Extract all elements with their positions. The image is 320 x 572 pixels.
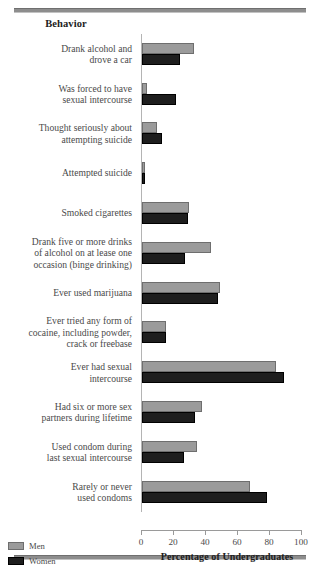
chart-row: Used condom duringlast sexual intercours… <box>0 432 320 472</box>
bar-women <box>142 293 218 304</box>
chart-row-label: Ever used marijuana <box>2 287 132 298</box>
chart-row-bars <box>142 361 320 383</box>
chart-row: Thought seriously aboutattempting suicid… <box>0 114 320 154</box>
plot-area: Drank alcohol anddrove a carWas forced t… <box>0 34 320 518</box>
chart-row-label: Ever had sexualintercourse <box>2 361 132 384</box>
chart-row-bars <box>142 481 320 503</box>
x-tick <box>141 530 142 535</box>
top-rule <box>14 8 306 13</box>
bar-women <box>142 452 184 463</box>
chart-row-bars <box>142 242 320 264</box>
chart-row-bars <box>142 162 320 184</box>
chart-row-label: Ever tried any form ofcocaine, including… <box>2 315 132 349</box>
chart-row-label: Had six or more sexpartners during lifet… <box>2 401 132 424</box>
chart-row: Ever used marijuana <box>0 273 320 313</box>
x-tick <box>269 530 270 535</box>
x-axis-title: Percentage of Undergraduates <box>141 551 313 562</box>
bar-men <box>142 321 166 332</box>
x-tick-label: 60 <box>232 537 241 547</box>
chart-row-label: Was forced to havesexual intercourse <box>2 82 132 105</box>
chart-row-label: Used condom duringlast sexual intercours… <box>2 440 132 463</box>
x-tick-label: 0 <box>139 537 144 547</box>
legend-swatch <box>8 557 24 565</box>
chart-row-bars <box>142 122 320 144</box>
bar-men <box>142 83 147 94</box>
bar-men <box>142 481 250 492</box>
legend-label: Men <box>29 541 45 551</box>
chart-row-label: Attempted suicide <box>2 168 132 179</box>
chart-row: Ever had sexualintercourse <box>0 352 320 392</box>
x-tick-label: 40 <box>200 537 209 547</box>
bar-men <box>142 202 189 213</box>
bar-women <box>142 213 188 224</box>
chart-row: Had six or more sexpartners during lifet… <box>0 392 320 432</box>
chart-row: Attempted suicide <box>0 153 320 193</box>
chart-row: Drank alcohol anddrove a car <box>0 34 320 74</box>
x-tick-label: 20 <box>168 537 177 547</box>
chart-row-bars <box>142 441 320 463</box>
chart-row: Rarely or neverused condoms <box>0 472 320 512</box>
bar-women <box>142 372 284 383</box>
bar-women <box>142 54 180 65</box>
chart-row-label: Smoked cigarettes <box>2 207 132 218</box>
chart-row: Drank five or more drinksof alcohol on a… <box>0 233 320 273</box>
bar-women <box>142 133 162 144</box>
chart-row-label: Drank alcohol anddrove a car <box>2 42 132 65</box>
bar-men <box>142 282 220 293</box>
x-tick-label: 100 <box>294 537 308 547</box>
legend-label: Women <box>29 556 56 566</box>
bar-men <box>142 162 145 173</box>
chart-row-bars <box>142 282 320 304</box>
legend-item: Men <box>8 540 56 552</box>
chart-row: Was forced to havesexual intercourse <box>0 74 320 114</box>
bar-women <box>142 173 145 184</box>
bar-men <box>142 401 202 412</box>
x-tick-label: 80 <box>264 537 273 547</box>
x-tick <box>205 530 206 535</box>
bar-men <box>142 242 211 253</box>
chart-row-bars <box>142 83 320 105</box>
chart-row-label: Drank five or more drinksof alcohol on a… <box>2 236 132 270</box>
chart-row-bars <box>142 321 320 343</box>
x-axis <box>141 530 302 531</box>
bar-women <box>142 253 185 264</box>
chart-row-label: Rarely or neverused condoms <box>2 480 132 503</box>
chart-legend: MenWomen <box>8 540 56 570</box>
bar-women <box>142 412 195 423</box>
bar-women <box>142 492 267 503</box>
chart-row-bars <box>142 43 320 65</box>
legend-item: Women <box>8 555 56 567</box>
chart-row-label: Thought seriously aboutattempting suicid… <box>2 122 132 145</box>
chart-row: Smoked cigarettes <box>0 193 320 233</box>
bar-men <box>142 43 194 54</box>
x-tick <box>237 530 238 535</box>
chart-row: Ever tried any form ofcocaine, including… <box>0 313 320 353</box>
category-rows: Drank alcohol anddrove a carWas forced t… <box>0 34 320 512</box>
x-tick <box>301 530 302 535</box>
bar-chart-figure: Behavior Drank alcohol anddrove a carWas… <box>0 18 320 558</box>
bar-women <box>142 94 176 105</box>
bar-men <box>142 441 197 452</box>
behavior-column-header: Behavior <box>0 18 132 29</box>
x-tick <box>173 530 174 535</box>
bar-men <box>142 361 276 372</box>
bar-women <box>142 332 166 343</box>
legend-swatch <box>8 542 24 550</box>
chart-row-bars <box>142 401 320 423</box>
bar-men <box>142 122 157 133</box>
chart-row-bars <box>142 202 320 224</box>
